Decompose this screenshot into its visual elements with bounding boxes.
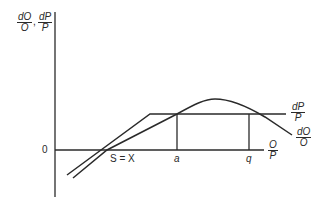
intersection-label: S = X — [110, 153, 135, 164]
y-axis-label-dP-P: dP P — [38, 12, 52, 33]
label-den: O — [300, 138, 308, 148]
point-a-label: a — [174, 153, 180, 164]
curve-label-dO-O: dO O — [296, 127, 311, 148]
x-axis-label: O P — [268, 140, 278, 161]
label-den: P — [295, 113, 302, 123]
y-axis-label-dO-O: dO O — [17, 12, 32, 33]
y-axis-label-separator: , — [33, 16, 36, 27]
point-q-label: q — [246, 153, 252, 164]
origin-label: 0 — [42, 144, 48, 155]
label-den: P — [42, 23, 49, 33]
label-den: O — [21, 23, 29, 33]
dO-over-O-curve — [73, 99, 292, 178]
curve-label-dP-P: dP P — [291, 102, 305, 123]
label-den: P — [270, 151, 277, 161]
